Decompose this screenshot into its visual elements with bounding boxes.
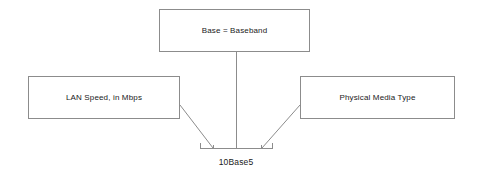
connector-lan-speed-to-bracket: [180, 105, 213, 148]
callout-box-lan-speed: LAN Speed, in Mbps: [28, 76, 180, 119]
callout-box-media-type-label: Physical Media Type: [339, 93, 415, 103]
diagram-canvas: Base = Baseband LAN Speed, in Mbps Physi…: [0, 0, 481, 176]
callout-box-base: Base = Baseband: [159, 9, 310, 52]
callout-box-base-label: Base = Baseband: [202, 26, 268, 36]
callout-box-lan-speed-label: LAN Speed, in Mbps: [66, 93, 142, 103]
connector-media-type-to-bracket: [262, 105, 300, 148]
bracket-caption-label: 10Base5: [186, 157, 286, 168]
callout-box-media-type: Physical Media Type: [300, 76, 455, 119]
